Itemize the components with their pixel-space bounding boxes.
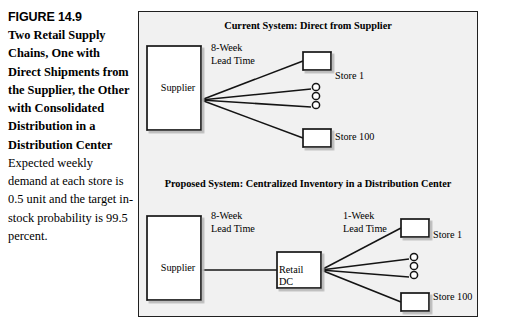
supplier-box-bottom — [147, 216, 201, 300]
store-100-label-bottom: Store 100 — [433, 291, 472, 302]
store-1-label-top: Store 1 — [335, 70, 364, 81]
figure-number: FIGURE 14.9 — [8, 10, 134, 24]
store-1-box-bottom — [401, 219, 429, 237]
store-100-label-top: Store 100 — [335, 131, 374, 142]
figure-caption: FIGURE 14.9Two Retail Supply Chains, One… — [8, 10, 134, 244]
figure-title: Two Retail Supply Chains, One with Direc… — [8, 28, 129, 151]
lead-time-top-line2: Lead Time — [211, 55, 255, 68]
supplier-label-bottom: Supplier — [153, 262, 203, 274]
link-dc-storeA — [321, 259, 409, 270]
supplier-label-top: Supplier — [153, 82, 203, 94]
bottom-connectors — [321, 228, 409, 302]
store-100-box-bottom — [401, 293, 429, 311]
store-1-label-bottom: Store 1 — [433, 229, 462, 240]
store-ellipsis-bottom — [410, 253, 417, 278]
lead-time-label-supplier-dc: 8-Week Lead Time — [211, 210, 255, 236]
store-ellipsis-top — [312, 83, 319, 108]
lead-time-supplier-dc-line1: 8-Week — [211, 210, 255, 223]
lead-time-dc-store-line1: 1-Week — [343, 210, 387, 223]
figure-description: Expected weekly demand at each store is … — [8, 156, 133, 243]
lead-time-supplier-dc-line2: Lead Time — [211, 223, 255, 236]
store-1-box-top — [303, 52, 331, 70]
lead-time-label-dc-store: 1-Week Lead Time — [343, 210, 387, 236]
retail-dc-label-line1: Retail — [279, 264, 303, 275]
section-title-proposed: Proposed System: Centralized Inventory i… — [165, 178, 452, 189]
store-100-box-top — [303, 129, 331, 147]
section-title-current: Current System: Direct from Supplier — [224, 20, 392, 31]
lead-time-dc-store-line2: Lead Time — [343, 223, 387, 236]
diagram-panel: Current System: Direct from Supplier Pro… — [138, 11, 478, 317]
top-connectors — [201, 61, 311, 138]
retail-dc-label: Retail DC — [279, 264, 303, 288]
lead-time-label-top: 8-Week Lead Time — [211, 42, 255, 68]
retail-dc-label-line2: DC — [279, 276, 303, 288]
lead-time-top-line1: 8-Week — [211, 42, 255, 55]
